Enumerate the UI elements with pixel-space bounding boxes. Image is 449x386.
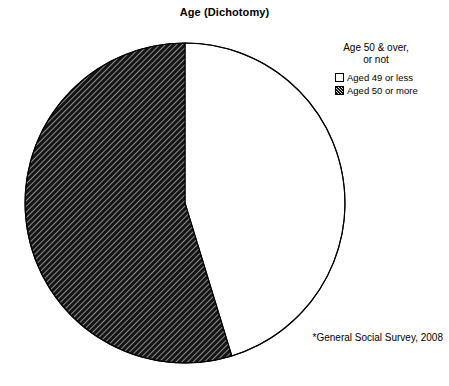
legend-title: Age 50 & over, or not — [308, 42, 444, 66]
legend-item-label: Aged 49 or less — [347, 72, 413, 83]
legend: Age 50 & over, or not Aged 49 or less Ag… — [308, 42, 444, 97]
pie-chart-figure: Age (Dichotomy) Age 50 & over, or not Ag… — [0, 0, 449, 386]
legend-item-aged-50-or-more[interactable]: Aged 50 or more — [335, 84, 418, 96]
source-footnote: *General Social Survey, 2008 — [313, 332, 443, 343]
legend-item-list: Aged 49 or less Aged 50 or more — [308, 71, 444, 97]
legend-item-aged-49-or-less[interactable]: Aged 49 or less — [335, 71, 413, 83]
legend-item-label: Aged 50 or more — [347, 85, 418, 96]
legend-swatch-hatched-icon — [335, 86, 344, 95]
legend-swatch-empty-icon — [335, 73, 344, 82]
